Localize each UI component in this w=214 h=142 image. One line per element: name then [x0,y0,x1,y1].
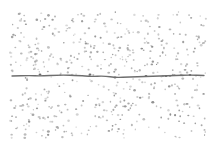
speckle-dot [33,109,34,111]
speckle-dot [104,59,106,60]
speckle-dot [36,107,38,109]
speckle-dot [149,26,151,28]
speckle-dot [126,82,127,83]
speckle-dot [98,84,100,86]
speckle-dot [53,115,55,117]
speckle-dot [107,72,110,74]
speckle-dot [47,116,49,118]
speckle-dot [197,36,199,38]
speckle-dot [110,63,112,65]
speckle-dot [171,84,173,86]
speckle-dot [133,59,135,61]
speckle-dot [178,110,180,112]
speckle-dot [77,14,79,15]
speckle-dot [65,61,68,63]
speckle-dot [132,78,134,80]
speckle-dot [67,109,69,111]
speckle-dot [157,17,159,19]
speckle-dot [18,13,20,15]
speckle-dot [36,38,38,40]
speckle-dot [112,125,114,127]
speckle-dot [15,128,17,130]
speckle-dot [26,87,28,89]
speckle-dot [96,65,98,67]
speckle-dot [154,30,156,31]
speckle-dot [115,54,117,56]
speckle-dot [178,137,180,138]
speckle-dot [184,69,187,71]
speckle-dot [50,53,52,55]
speckle-dot [12,34,14,36]
speckle-dot [126,28,128,30]
speckle-dot [151,64,154,66]
speckle-dot [142,15,144,17]
speckle-dot [48,58,50,60]
speckle-dot [139,69,141,72]
speckle-dot [176,58,178,59]
speckle-dot [186,48,188,50]
speckle-dot [205,18,207,20]
speckled-texture-photo [0,0,214,142]
speckle-dot [19,105,21,107]
speckle-dot [57,83,59,84]
speckle-dot [73,34,74,36]
speckle-dot [169,113,171,115]
speckle-dot [65,25,68,27]
speckle-dot [26,78,28,81]
speckle-dot [84,47,86,49]
speckle-dot [181,77,184,79]
speckle-dot [110,19,113,21]
speckle-dot [194,48,196,50]
speckle-dot [180,21,182,23]
speckle-dot [72,21,74,23]
speckle-dot [89,56,91,58]
speckle-dot [71,19,73,21]
speckle-dot [87,95,89,96]
speckle-dot [106,31,108,33]
speckle-dot [124,33,126,35]
speckle-dot [12,71,14,72]
speckle-dot [147,42,150,44]
speckle-dot [12,24,13,26]
speckle-dot [17,27,19,29]
speckle-dot [119,119,121,120]
speckle-dot [50,107,52,109]
speckle-dot [148,93,150,95]
speckle-dot [176,86,178,87]
speckle-dot [122,56,123,57]
speckle-dot [110,57,111,58]
speckle-dot [190,17,192,19]
speckle-dot [132,49,134,51]
speckle-dot [136,121,138,123]
speckle-dot [133,14,136,16]
speckle-dot [200,77,201,78]
speckle-dot [114,68,117,70]
fiber-knot [145,75,148,77]
speckle-dot [36,132,38,134]
speckle-dot [98,103,100,105]
speckle-dot [202,25,205,27]
speckle-dot [204,134,205,136]
speckle-dot [54,16,56,18]
speckle-dot [87,134,88,136]
speckle-dot [94,107,97,109]
speckle-dot [202,42,204,44]
speckle-dot [19,20,22,22]
speckle-dot [51,121,53,123]
speckle-dot [120,101,122,104]
speckle-dot [85,41,86,43]
speckle-dot [81,20,83,22]
speckle-dot [117,81,119,83]
speckle-dot [22,109,24,111]
speckle-dot [30,56,32,58]
speckle-dot [104,25,106,27]
speckle-dot [71,134,73,136]
speckle-dot [78,41,80,43]
speckle-dot [93,45,95,47]
speckle-dot [15,116,17,118]
speckle-dot [15,62,16,63]
speckle-dot [120,23,122,24]
speckle-dot [132,103,134,105]
speckle-dot [11,115,13,116]
speckle-dot [115,124,117,125]
